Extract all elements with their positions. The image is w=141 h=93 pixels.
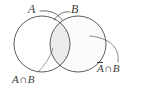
label-set-b: B	[71, 3, 78, 15]
label-complement-intersection: A∩B	[97, 63, 119, 74]
intersection-operator-icon: ∩	[19, 73, 28, 85]
venn-diagram-figure: A B A∩B A∩B	[0, 0, 141, 93]
label-complement-right: B	[113, 62, 120, 74]
label-set-a: A	[28, 3, 35, 15]
label-intersection-left: A	[12, 73, 19, 85]
complement-intersection-operator-icon: ∩	[104, 62, 113, 74]
label-complement-left: A	[97, 63, 104, 74]
label-intersection: A∩B	[12, 74, 34, 85]
label-intersection-right: B	[28, 73, 35, 85]
